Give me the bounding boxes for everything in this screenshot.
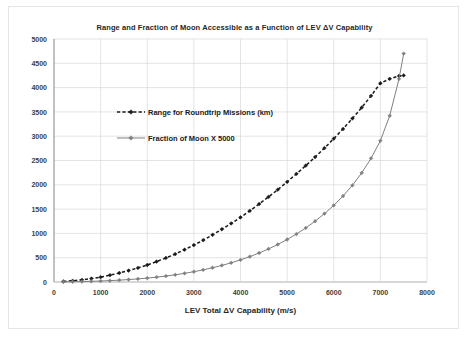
chart-plot: 0500100015002000250030003500400045005000…	[9, 7, 460, 330]
data-point-marker	[127, 269, 131, 273]
x-tick-label: 7000	[373, 289, 389, 296]
y-tick-label: 3000	[31, 133, 47, 140]
data-point-marker	[99, 275, 103, 279]
data-point-marker	[239, 215, 243, 219]
data-point-marker	[402, 74, 406, 78]
data-point-marker	[239, 258, 243, 262]
y-tick-label: 1000	[31, 230, 47, 237]
y-tick-label: 0	[43, 279, 47, 286]
legend-label: Fraction of Moon X 5000	[148, 134, 235, 143]
data-point-marker	[145, 276, 149, 280]
data-point-marker	[397, 77, 401, 81]
data-point-marker	[136, 266, 140, 270]
data-point-marker	[108, 273, 112, 277]
data-point-marker	[173, 273, 177, 277]
data-point-marker	[145, 263, 149, 267]
data-point-marker	[164, 274, 168, 278]
legend-item-0[interactable]: Range for Roundtrip Missions (km)	[117, 108, 274, 117]
x-tick-label: 4000	[233, 289, 249, 296]
x-tick-label: 2000	[139, 289, 155, 296]
data-point-marker	[136, 277, 140, 281]
data-point-marker	[229, 261, 233, 265]
data-point-marker	[129, 110, 134, 115]
data-point-marker	[267, 247, 271, 251]
data-point-marker	[220, 264, 224, 268]
data-point-marker	[378, 139, 382, 143]
data-point-marker	[89, 279, 93, 283]
data-point-marker	[61, 280, 65, 284]
series-line	[63, 75, 403, 281]
y-tick-label: 500	[35, 254, 47, 261]
data-point-marker	[201, 268, 205, 272]
y-tick-label: 4000	[31, 84, 47, 91]
data-point-marker	[211, 266, 215, 270]
x-tick-label: 1000	[93, 289, 109, 296]
y-tick-label: 1500	[31, 206, 47, 213]
data-point-marker	[164, 256, 168, 260]
chart-container: Range and Fraction of Moon Accessible as…	[8, 6, 459, 329]
y-tick-label: 2000	[31, 181, 47, 188]
data-point-marker	[127, 278, 131, 282]
data-point-marker	[192, 270, 196, 274]
data-point-marker	[257, 251, 261, 255]
data-point-marker	[117, 271, 121, 275]
x-axis-title: LEV Total ΔV Capability (m/s)	[185, 306, 297, 315]
data-point-marker	[183, 271, 187, 275]
data-point-marker	[192, 243, 196, 247]
x-tick-label: 5000	[279, 289, 295, 296]
series-1	[61, 52, 405, 284]
data-point-marker	[117, 278, 121, 282]
data-point-marker	[155, 260, 159, 264]
y-tick-label: 5000	[31, 36, 47, 43]
data-point-marker	[276, 243, 280, 247]
legend-label: Range for Roundtrip Missions (km)	[148, 108, 274, 117]
x-tick-label: 0	[52, 289, 56, 296]
data-point-marker	[155, 275, 159, 279]
x-tick-label: 6000	[326, 289, 342, 296]
data-point-marker	[388, 114, 392, 118]
y-tick-label: 3500	[31, 109, 47, 116]
legend-item-1[interactable]: Fraction of Moon X 5000	[117, 134, 235, 143]
y-tick-label: 2500	[31, 157, 47, 164]
data-point-marker	[229, 222, 233, 226]
x-tick-label: 8000	[419, 289, 435, 296]
series-0	[61, 74, 405, 284]
data-point-marker	[402, 52, 406, 56]
x-tick-label: 3000	[186, 289, 202, 296]
data-point-marker	[388, 77, 392, 81]
y-tick-label: 4500	[31, 60, 47, 67]
